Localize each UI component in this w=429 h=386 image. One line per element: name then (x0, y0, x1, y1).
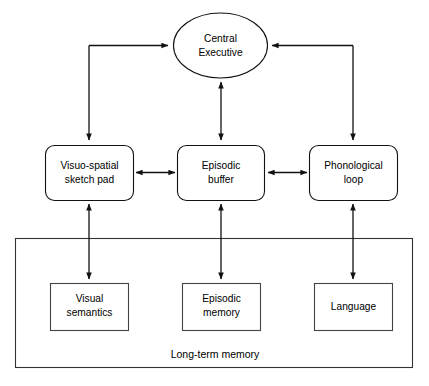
visuo-spatial-sketch-pad-label-line1: Visuo-spatial (60, 160, 118, 171)
node-episodic-memory[interactable]: Episodic memory (183, 284, 261, 331)
node-language[interactable]: Language (315, 284, 393, 331)
episodic-memory-label-line1: Episodic (202, 293, 241, 304)
episodic-buffer-label-line2: buffer (208, 174, 234, 185)
phonological-loop-label-line1: Phonological (324, 160, 382, 171)
node-episodic-buffer[interactable]: Episodic buffer (178, 146, 265, 201)
diagram-canvas: Central Executive Visuo-spatial sketch p… (0, 0, 429, 386)
node-visuo-spatial-sketch-pad[interactable]: Visuo-spatial sketch pad (46, 146, 134, 201)
episodic-buffer-label-line1: Episodic (202, 160, 241, 171)
node-visual-semantics[interactable]: Visual semantics (51, 284, 129, 331)
visual-semantics-label-line1: Visual (76, 293, 104, 304)
language-label-line1: Language (331, 301, 377, 312)
central-executive-label-line1: Central (204, 33, 237, 44)
node-phonological-loop[interactable]: Phonological loop (310, 146, 398, 201)
visuo-spatial-sketch-pad-label-line2: sketch pad (65, 174, 115, 185)
phonological-loop-label-line2: loop (344, 174, 364, 185)
episodic-memory-label-line2: memory (203, 307, 241, 318)
central-executive-label-line2: Executive (198, 47, 243, 58)
long-term-memory-caption: Long-term memory (171, 348, 260, 360)
node-central-executive[interactable]: Central Executive (174, 13, 268, 78)
central-executive-ellipse (174, 13, 268, 78)
visual-semantics-label-line2: semantics (67, 307, 113, 318)
working-memory-diagram: Central Executive Visuo-spatial sketch p… (0, 0, 429, 386)
